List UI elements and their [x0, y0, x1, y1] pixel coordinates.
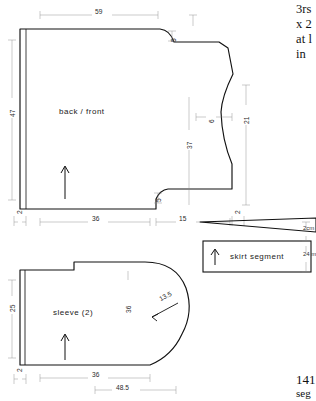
piece-label-sleeve: sleeve (2)	[53, 308, 93, 317]
printed-bottom-word: seg	[296, 387, 311, 399]
printed-line-1: 3rs	[296, 2, 312, 17]
dim-sleeve-bottom-width: 36	[92, 371, 99, 378]
back-front-grainline-arrow	[61, 166, 69, 199]
dim-back-front-top-width: 59	[95, 8, 102, 15]
dim-back-front-hem-allowance: 2	[16, 210, 23, 214]
dim-back-front-left-height: 47	[9, 110, 16, 117]
dim-sleeve-total-width: 48.5	[116, 384, 129, 391]
back-front-outline	[20, 29, 233, 209]
dim-back-front-side-step: 15	[179, 215, 186, 222]
piece-label-back-front: back / front	[59, 107, 105, 116]
dim-back-front-hem-step: 5	[155, 198, 162, 202]
dim-sleeve-left-height: 25	[9, 305, 16, 312]
dim-back-front-center-height: 37	[186, 142, 193, 149]
dim-sleeve-center-height: 36	[125, 306, 132, 313]
dim-skirt-wedge-height: 2cm	[303, 225, 314, 231]
sleeve-outline	[20, 262, 189, 365]
skirt-grainline-arrow	[211, 249, 219, 265]
dim-skirt-panel-height: 24 m	[303, 251, 316, 257]
dim-back-front-side-allowance: 2	[234, 210, 241, 214]
dim-back-front-bottom-width: 36	[92, 215, 99, 222]
dim-back-front-side-height: 21	[243, 117, 250, 124]
printed-line-4: in	[296, 47, 306, 62]
sleeve-cap-leader	[152, 303, 178, 321]
printed-page-number: 141	[296, 372, 316, 388]
dim-back-front-armhole-depth: 6	[208, 119, 215, 123]
dim-back-front-shoulder-drop: 5	[170, 38, 177, 42]
skirt-wedge-outline	[200, 218, 316, 232]
printed-line-3: at l	[296, 32, 312, 47]
dim-sleeve-hem-allowance: 2	[16, 368, 23, 372]
printed-line-2: x 2	[296, 17, 312, 32]
sleeve-grainline-arrow	[61, 334, 69, 360]
pattern-sheet: 3rs x 2 at l in 141 seg back / front 59 …	[0, 0, 316, 401]
piece-label-skirt-segment: skirt segment	[230, 252, 284, 261]
